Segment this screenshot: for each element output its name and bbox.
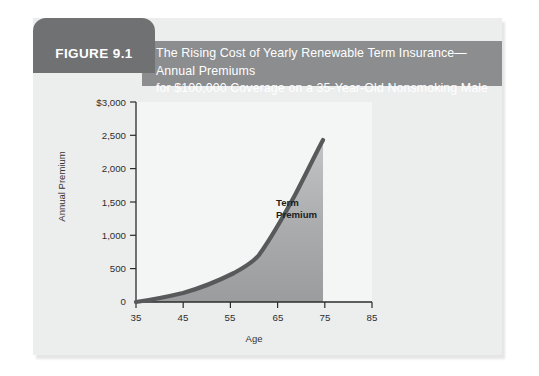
term-premium-annotation: Term Premium [276, 197, 317, 220]
y-axis-ticks [130, 102, 136, 269]
x-tick-label-35: 35 [121, 312, 151, 323]
figure-screenshot: The Rising Cost of Yearly Renewable Term… [0, 0, 539, 376]
term-premium-area [136, 140, 323, 302]
figure-card: The Rising Cost of Yearly Renewable Term… [33, 18, 502, 355]
term-premium-annotation-line-2: Premium [276, 209, 317, 221]
x-tick-label-85: 85 [357, 312, 387, 323]
y-tick-label-2000: 2,000 [70, 163, 126, 174]
x-tick-label-45: 45 [168, 312, 198, 323]
y-tick-label-3000: $3,000 [70, 97, 126, 108]
figure-title-line-2: for $100,000 Coverage on a 35-Year-Old N… [156, 80, 496, 98]
y-tick-label-1500: 1,500 [70, 197, 126, 208]
chart-panel: $3,000 2,500 2,000 1,500 1,000 500 0 35 … [33, 73, 502, 355]
y-axis-title: Annual Premium [56, 137, 67, 237]
y-tick-label-0: 0 [70, 296, 126, 307]
y-tick-label-2500: 2,500 [70, 130, 126, 141]
figure-title-line-1: The Rising Cost of Yearly Renewable Term… [156, 45, 496, 80]
y-tick-label-500: 500 [70, 263, 126, 274]
x-axis-title: Age [136, 333, 372, 344]
x-tick-label-55: 55 [215, 312, 245, 323]
x-tick-label-75: 75 [310, 312, 340, 323]
term-premium-annotation-line-1: Term [276, 197, 317, 209]
figure-title: The Rising Cost of Yearly Renewable Term… [156, 45, 496, 98]
y-tick-label-1000: 1,000 [70, 230, 126, 241]
x-tick-label-65: 65 [263, 312, 293, 323]
x-axis-ticks [136, 302, 372, 308]
figure-number-tab: FIGURE 9.1 [33, 18, 155, 73]
figure-number-label: FIGURE 9.1 [33, 46, 155, 61]
figure-title-band: The Rising Cost of Yearly Renewable Term… [142, 41, 502, 86]
